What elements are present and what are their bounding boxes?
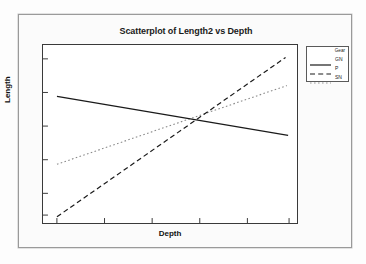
legend-swatch-dotted (309, 73, 332, 81)
y-axis-label: Length (3, 76, 12, 103)
series-line-sn (57, 86, 287, 165)
legend-item-gn[interactable]: GN (307, 55, 350, 63)
legend-box: Gear GN P (306, 46, 349, 82)
chart-title: Scatterplot of Length2 vs Depth (19, 26, 353, 36)
series-line-p (57, 57, 286, 216)
plot-svg (43, 45, 297, 223)
series-line-gn (57, 96, 288, 135)
legend-label-p: P (335, 65, 338, 71)
page-background: Scatterplot of Length2 vs Depth (0, 0, 366, 264)
legend-item-p[interactable]: P (307, 64, 350, 72)
x-axis-ticks (57, 218, 289, 223)
y-axis-ticks (43, 59, 48, 215)
legend-swatch-solid (309, 55, 332, 63)
legend-item-sn[interactable]: SN (307, 73, 350, 81)
x-axis-label: Depth (42, 229, 298, 238)
legend-title: Gear (335, 48, 345, 53)
graph-window-frame: Scatterplot of Length2 vs Depth (18, 14, 352, 248)
legend-label-gn: GN (335, 56, 343, 62)
legend-swatch-dashed (309, 64, 332, 72)
plot-panel (42, 44, 298, 224)
legend-label-sn: SN (335, 74, 342, 80)
